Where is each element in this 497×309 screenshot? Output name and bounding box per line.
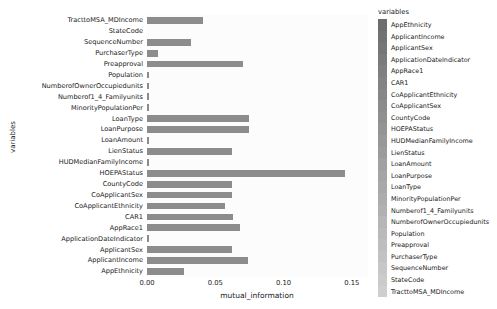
bar [147, 104, 149, 111]
legend-item[interactable]: CountyCode [378, 112, 497, 124]
bar-row [147, 255, 368, 266]
y-axis-tick-labels: TracttoMSA_MDIncomeStateCodeSequenceNumb… [0, 15, 143, 277]
bar [147, 181, 232, 188]
legend-swatch [378, 158, 387, 170]
legend-label: TracttoMSA_MDIncome [391, 288, 464, 296]
bar-row [147, 179, 368, 190]
legend-item[interactable]: Population [378, 228, 497, 240]
legend-swatch [378, 147, 387, 159]
bar-row [147, 37, 368, 48]
y-tick-label: TracttoMSA_MDIncome [3, 16, 143, 24]
legend-label: Numberof1_4_Familyunits [391, 207, 474, 215]
x-axis-title: mutual_information [146, 291, 368, 300]
legend-swatch [378, 286, 387, 298]
y-tick-label: ApplicantSex [3, 246, 143, 254]
legend-item[interactable]: LoanType [378, 181, 497, 193]
y-tick-label: Preapproval [3, 60, 143, 68]
bar [147, 257, 248, 264]
legend-item[interactable]: ApplicationDateIndicator [378, 54, 497, 66]
bar [147, 148, 232, 155]
legend-item[interactable]: AppEthnicity [378, 19, 497, 31]
legend-swatch [378, 31, 387, 43]
legend-label: CAR1 [391, 79, 408, 87]
chart-figure: variables TracttoMSA_MDIncomeStateCodeSe… [0, 0, 497, 309]
legend-label: NumberofOwnerOccupiedunits [391, 218, 489, 226]
legend-item[interactable]: Numberof1_4_Familyunits [378, 205, 497, 217]
bar [147, 137, 149, 144]
y-tick-label: MinorityPopulationPer [3, 104, 143, 112]
legend-item[interactable]: LoanAmount [378, 158, 497, 170]
legend-item[interactable]: SequenceNumber [378, 262, 497, 274]
legend-label: LoanAmount [391, 160, 431, 168]
x-tick-label: 0.05 [195, 279, 235, 287]
legend-label: SequenceNumber [391, 264, 448, 272]
legend-swatch [378, 123, 387, 135]
legend-label: ApplicantIncome [391, 33, 445, 41]
bar [147, 61, 243, 68]
bar-row [147, 212, 368, 223]
bar-row [147, 233, 368, 244]
legend-swatch [378, 100, 387, 112]
bar [147, 235, 149, 242]
bar-row [147, 168, 368, 179]
bar [147, 83, 149, 90]
bar [147, 214, 233, 221]
legend-title: variables [378, 8, 409, 16]
bar [147, 246, 232, 253]
legend-label: CountyCode [391, 114, 430, 122]
legend-swatch [378, 170, 387, 182]
bar [147, 192, 232, 199]
legend-label: ApplicationDateIndicator [391, 56, 470, 64]
legend-item[interactable]: Preapproval [378, 239, 497, 251]
legend-swatch [378, 216, 387, 228]
y-tick-label: NumberofOwnerOccupiedunits [3, 82, 143, 90]
y-tick-label: CAR1 [3, 213, 143, 221]
y-tick-label: AppRace1 [3, 224, 143, 232]
legend-label: CoApplicantEthnicity [391, 91, 457, 99]
legend-item[interactable]: PurchaserType [378, 251, 497, 263]
legend-swatch [378, 251, 387, 263]
y-tick-label: HUDMedianFamilyIncome [3, 158, 143, 166]
legend-item[interactable]: CAR1 [378, 77, 497, 89]
legend: variables AppEthnicityApplicantIncomeApp… [378, 8, 497, 303]
x-tick-label: 0.10 [264, 279, 304, 287]
legend-label: StateCode [391, 276, 424, 284]
legend-swatch [378, 135, 387, 147]
y-tick-label: Numberof1_4_Familyunits [3, 93, 143, 101]
legend-item[interactable]: HUDMedianFamilyIncome [378, 135, 497, 147]
legend-item[interactable]: ApplicantSex [378, 42, 497, 54]
legend-item[interactable]: AppRace1 [378, 65, 497, 77]
legend-item[interactable]: StateCode [378, 274, 497, 286]
bar [147, 50, 158, 57]
legend-swatch [378, 65, 387, 77]
legend-label: MinorityPopulationPer [391, 195, 461, 203]
legend-label: LienStatus [391, 149, 425, 157]
bar-row [147, 48, 368, 59]
bar-row [147, 59, 368, 70]
legend-swatch [378, 89, 387, 101]
legend-item[interactable]: NumberofOwnerOccupiedunits [378, 216, 497, 228]
legend-label: AppRace1 [391, 67, 423, 75]
legend-swatch [378, 274, 387, 286]
legend-label: Population [391, 230, 425, 238]
y-tick-label: Population [3, 71, 143, 79]
y-tick-label: LoanType [3, 115, 143, 123]
legend-item[interactable]: CoApplicantEthnicity [378, 89, 497, 101]
legend-item[interactable]: LoanPurpose [378, 170, 497, 182]
legend-label: ApplicantSex [391, 44, 433, 52]
bar-row [147, 70, 368, 81]
legend-swatch [378, 193, 387, 205]
y-tick-label: LienStatus [3, 147, 143, 155]
legend-item[interactable]: TracttoMSA_MDIncome [378, 286, 497, 298]
bar-row [147, 266, 368, 277]
legend-swatch [378, 112, 387, 124]
bar-row [147, 91, 368, 102]
legend-label: AppEthnicity [391, 21, 431, 29]
legend-item[interactable]: LienStatus [378, 147, 497, 159]
legend-item[interactable]: HOEPAStatus [378, 123, 497, 135]
legend-label: PurchaserType [391, 253, 437, 261]
legend-item[interactable]: CoApplicantSex [378, 100, 497, 112]
legend-swatch [378, 42, 387, 54]
legend-item[interactable]: ApplicantIncome [378, 31, 497, 43]
legend-item[interactable]: MinorityPopulationPer [378, 193, 497, 205]
